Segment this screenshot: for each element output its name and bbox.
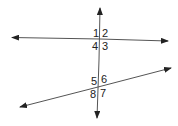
angle-label-4: 4 [92, 40, 98, 52]
angle-label-7: 7 [100, 87, 106, 99]
angle-label-5: 5 [91, 75, 97, 87]
line-top [12, 38, 100, 40]
angle-label-1: 1 [93, 27, 99, 39]
angle-label-3: 3 [102, 40, 108, 52]
angle-label-2: 2 [102, 27, 108, 39]
transversal-down [97, 60, 99, 118]
angle-label-6: 6 [101, 73, 107, 85]
diagram-canvas: 1 2 4 3 5 6 8 7 [0, 0, 178, 126]
line-top-right [100, 39, 168, 41]
angles-diagram: 1 2 4 3 5 6 8 7 [0, 0, 178, 126]
angle-label-8: 8 [90, 88, 96, 100]
transversal-up [99, 8, 100, 60]
line-bottom [98, 68, 171, 87]
line-bottom-left [20, 87, 98, 107]
